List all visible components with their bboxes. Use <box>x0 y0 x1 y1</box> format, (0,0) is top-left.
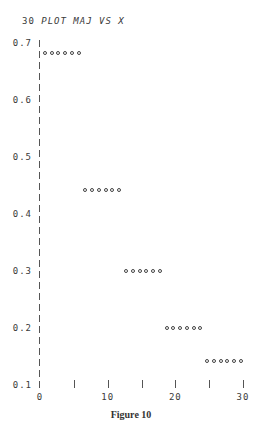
y-axis-segment <box>39 293 40 300</box>
y-axis-segment <box>39 84 40 91</box>
data-point-marker <box>192 326 196 330</box>
plot-command: PLOT MAJ VS X <box>41 16 124 26</box>
y-axis-segment <box>39 370 40 377</box>
line-number: 30 <box>22 16 35 26</box>
y-axis-segment <box>39 161 40 168</box>
data-point-marker <box>185 326 189 330</box>
data-point-marker <box>144 269 148 273</box>
y-axis-segment <box>39 216 40 223</box>
data-point-marker <box>83 188 87 192</box>
data-point-marker <box>151 269 155 273</box>
data-point-marker <box>90 188 94 192</box>
data-point-marker <box>50 51 54 55</box>
x-tick-label: 0 <box>37 392 43 402</box>
y-axis-segment <box>39 260 40 267</box>
data-point-marker <box>43 51 47 55</box>
data-point-marker <box>205 359 209 363</box>
y-tick-label: 0.3 <box>2 266 32 276</box>
data-point-marker <box>232 359 236 363</box>
data-point-marker <box>110 188 114 192</box>
y-axis-segment <box>39 238 40 245</box>
data-point-marker <box>171 326 175 330</box>
plot-title: 30 PLOT MAJ VS X <box>22 16 125 26</box>
x-tick <box>243 380 244 388</box>
data-point-marker <box>70 51 74 55</box>
y-axis-segment <box>39 172 40 179</box>
y-tick-label: 0.5 <box>2 152 32 162</box>
y-axis-segment <box>39 282 40 289</box>
y-axis-segment <box>39 51 40 58</box>
y-axis-segment <box>39 249 40 256</box>
data-point-marker <box>124 269 128 273</box>
y-axis-segment <box>39 62 40 69</box>
y-tick-label: 0.1 <box>2 380 32 390</box>
data-point-marker <box>239 359 243 363</box>
data-point-marker <box>77 51 81 55</box>
data-point-marker <box>97 188 101 192</box>
y-axis-segment <box>39 139 40 146</box>
y-tick-label: 0.7 <box>2 38 32 48</box>
y-tick-label: 0.2 <box>2 323 32 333</box>
data-point-marker <box>219 359 223 363</box>
data-point-marker <box>56 51 60 55</box>
y-axis-segment <box>39 150 40 157</box>
y-axis-segment <box>39 348 40 355</box>
y-axis-segment <box>39 194 40 201</box>
x-tick <box>108 380 109 388</box>
y-axis-segment <box>39 381 40 388</box>
x-tick-label: 30 <box>237 392 250 402</box>
y-axis-segment <box>39 271 40 278</box>
x-tick-label: 20 <box>169 392 182 402</box>
data-point-marker <box>63 51 67 55</box>
x-tick-label: 10 <box>101 392 114 402</box>
data-point-marker <box>165 326 169 330</box>
x-tick <box>209 380 210 388</box>
data-point-marker <box>198 326 202 330</box>
data-point-marker <box>117 188 121 192</box>
y-axis-segment <box>39 326 40 333</box>
y-axis-segment <box>39 183 40 190</box>
y-axis-segment <box>39 304 40 311</box>
y-axis-segment <box>39 359 40 366</box>
y-axis-segment <box>39 73 40 80</box>
data-point-marker <box>104 188 108 192</box>
y-tick-label: 0.6 <box>2 95 32 105</box>
y-axis-segment <box>39 40 40 47</box>
y-axis-segment <box>39 227 40 234</box>
data-point-marker <box>138 269 142 273</box>
y-axis-segment <box>39 95 40 102</box>
x-tick <box>175 380 176 388</box>
data-point-marker <box>158 269 162 273</box>
figure-caption: Figure 10 <box>0 409 262 420</box>
y-axis-segment <box>39 117 40 124</box>
y-axis-segment <box>39 315 40 322</box>
x-tick <box>142 380 143 388</box>
data-point-marker <box>212 359 216 363</box>
x-tick <box>74 380 75 388</box>
y-tick-label: 0.4 <box>2 209 32 219</box>
data-point-marker <box>178 326 182 330</box>
y-axis-segment <box>39 128 40 135</box>
data-point-marker <box>225 359 229 363</box>
y-axis-segment <box>39 205 40 212</box>
data-point-marker <box>131 269 135 273</box>
y-axis-segment <box>39 106 40 113</box>
y-axis-segment <box>39 337 40 344</box>
